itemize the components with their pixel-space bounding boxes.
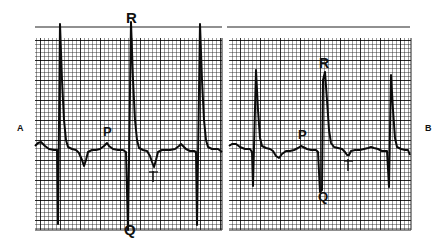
- panel-a: [35, 22, 222, 230]
- ecg-strips-svg: [0, 0, 447, 245]
- panel-b-label: B: [425, 123, 432, 133]
- panel-a-r-label: R: [126, 9, 137, 26]
- panel-a-label: A: [17, 123, 24, 133]
- panel-a-p-label: P: [103, 124, 112, 139]
- panel-b-p-label: P: [298, 127, 307, 142]
- panel-b-q-label: Q: [318, 189, 328, 204]
- panel-b-r-label: R: [319, 55, 329, 71]
- panel-a-q-label: Q: [124, 221, 136, 238]
- ecg-figure: A R Q P B R Q P: [0, 0, 447, 245]
